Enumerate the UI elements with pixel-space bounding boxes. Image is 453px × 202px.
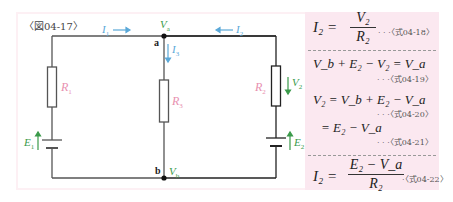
- current-i3-label: I3: [172, 43, 179, 58]
- formula-04-22-numerator: E₂ − V_a: [348, 157, 404, 173]
- formula-04-22-lhs: I₂ =: [313, 168, 337, 185]
- voltage-v2-label: V2: [292, 76, 302, 91]
- resistor-r2-label: R2: [255, 80, 266, 96]
- formula-04-20-ref: · · ·〈式04-20〉: [377, 108, 433, 119]
- voltage-va-label: Va: [160, 18, 170, 33]
- formula-04-20: V₂ = V_b + E₂ − V_a: [313, 92, 426, 108]
- formula-04-18-fraction: V₂ R₂: [350, 10, 376, 45]
- node-b-label: b: [155, 165, 161, 176]
- source-e2-label: E2: [294, 136, 304, 151]
- divider: [308, 155, 436, 156]
- node-a-label: a: [154, 37, 159, 48]
- node-b-dot: [161, 175, 166, 180]
- formula-04-22-fraction: E₂ − V_a R₂: [348, 157, 404, 192]
- figure-label: 〈図04-17〉: [24, 18, 83, 33]
- node-a-dot: [161, 33, 166, 38]
- formula-04-22-ref: ·〈式04-22〉: [402, 173, 448, 184]
- formula-04-21-ref: · · ·〈式04-21〉: [377, 136, 433, 147]
- voltage-vb-label: Vb: [169, 165, 179, 180]
- divider: [308, 50, 436, 51]
- current-i2-label: I2: [236, 23, 243, 38]
- formula-04-18-ref: · · ·〈式04-18〉: [378, 26, 434, 37]
- resistor-r3-label: R3: [172, 94, 183, 110]
- formula-04-21: = E₂ − V_a: [321, 120, 382, 136]
- formula-04-18-denominator: R₂: [350, 29, 376, 45]
- formula-04-18-lhs: I₂ =: [313, 19, 337, 36]
- formula-04-18-numerator: V₂: [350, 10, 376, 26]
- formula-04-19: V_b + E₂ − V₂ = V_a: [313, 56, 426, 72]
- formula-04-19-ref: · · ·〈式04-19〉: [377, 73, 433, 84]
- resistor-r1-label: R1: [61, 80, 72, 96]
- current-i1-label: I1: [102, 23, 109, 38]
- formula-04-22-denominator: R₂: [348, 176, 404, 192]
- source-e1-label: E1: [24, 136, 34, 151]
